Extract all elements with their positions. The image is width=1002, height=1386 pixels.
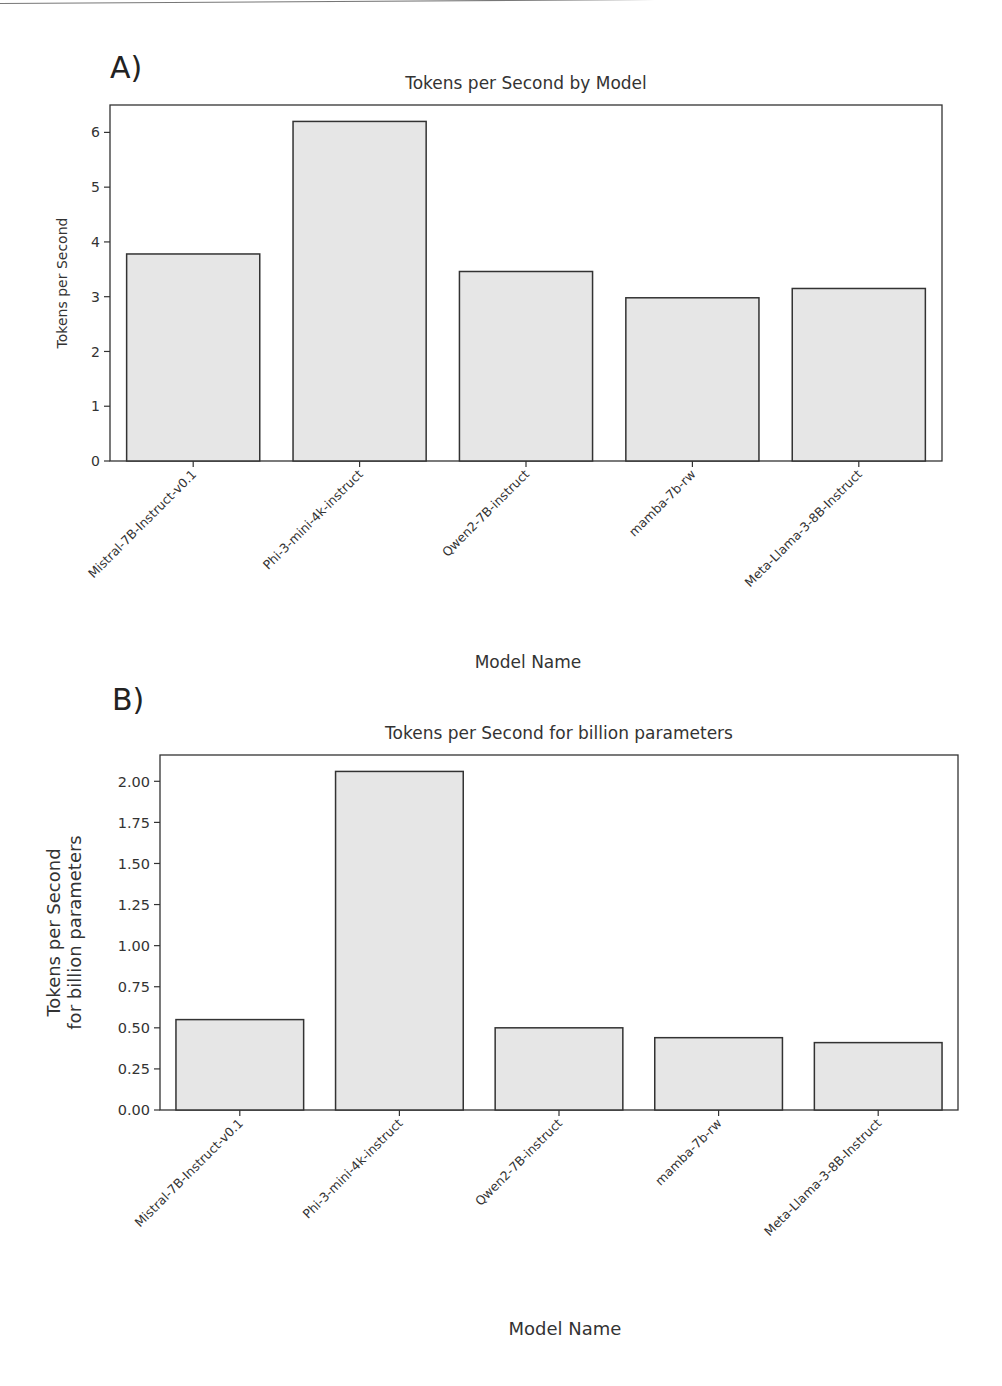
x-category-label: Phi-3-mini-4k-instruct	[300, 1115, 406, 1221]
bar	[176, 1020, 304, 1110]
chart-b-tokens-per-billion-params: Tokens per Second for billion parameters…	[0, 0, 1002, 1386]
bar	[336, 771, 464, 1110]
y-axis-label: Tokens per Second	[43, 848, 64, 1017]
x-axis-label: Model Name	[509, 1318, 622, 1339]
bar	[655, 1038, 783, 1110]
bar	[814, 1043, 942, 1110]
y-tick-label: 1.50	[118, 856, 150, 872]
y-tick-label: 1.75	[118, 815, 150, 831]
y-tick-label: 1.00	[118, 938, 150, 954]
chart-title: Tokens per Second for billion parameters	[384, 723, 733, 743]
y-axis-label: for billion parameters	[64, 835, 85, 1029]
x-category-label: Qwen2-7B-instruct	[472, 1115, 565, 1208]
y-tick-label: 0.75	[118, 979, 150, 995]
y-tick-label: 2.00	[118, 774, 150, 790]
x-category-label: Meta-Llama-3-8B-Instruct	[761, 1115, 884, 1238]
y-tick-label: 0.50	[118, 1020, 150, 1036]
x-category-label: Mistral-7B-Instruct-v0.1	[132, 1116, 246, 1230]
y-tick-label: 1.25	[118, 897, 150, 913]
y-tick-label: 0.00	[118, 1102, 150, 1118]
y-tick-label: 0.25	[118, 1061, 150, 1077]
x-category-label: mamba-7b-rw	[652, 1116, 725, 1189]
bar	[495, 1028, 623, 1110]
